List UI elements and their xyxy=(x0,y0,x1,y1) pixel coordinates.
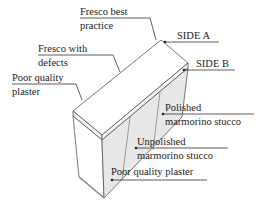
label-unpolished-line2: marmorino stucco xyxy=(137,150,213,161)
label-fresco-defects-line2: defects xyxy=(38,57,68,68)
label-fresco-best-practice-line2: practice xyxy=(80,20,113,31)
label-polished-line2: marmorino stucco xyxy=(165,116,241,127)
label-fresco-best-practice-line1: Fresco best xyxy=(80,6,128,17)
wall-box-drawing xyxy=(0,0,270,213)
label-poor-plaster-line1: Poor quality xyxy=(12,72,64,83)
label-unpolished-line1: Unpolished xyxy=(137,136,185,147)
label-fresco-defects-line1: Fresco with xyxy=(38,43,87,54)
label-poor-plaster-side-b: Poor quality plaster xyxy=(111,166,193,177)
label-poor-plaster-line2: plaster xyxy=(12,86,40,97)
label-side-a: SIDE A xyxy=(177,30,210,41)
wall-diagram: Fresco best practice Fresco with defects… xyxy=(0,0,270,213)
label-polished-line1: Polished xyxy=(165,102,201,113)
label-side-b: SIDE B xyxy=(196,58,229,69)
